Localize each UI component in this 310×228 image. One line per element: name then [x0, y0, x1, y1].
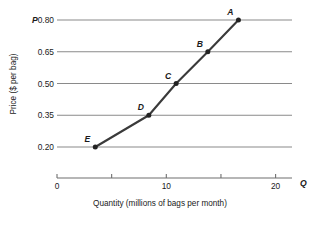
data-point-E	[93, 145, 98, 150]
point-label-B: B	[197, 39, 203, 49]
data-point-labels: EDCBA	[84, 7, 233, 144]
x-tick-label-0: 0	[55, 181, 60, 191]
x-tick-label-10: 10	[162, 181, 172, 191]
y-axis-title: Price ($ per bag)	[9, 53, 18, 114]
data-point-B	[205, 49, 210, 54]
data-point-D	[146, 113, 151, 118]
chart-canvas: 0.200.350.500.650.80 01020 EDCBA P Q Qua…	[0, 0, 310, 228]
supply-curve-chart: 0.200.350.500.650.80 01020 EDCBA P Q Qua…	[0, 0, 310, 228]
x-axis	[57, 174, 292, 178]
y-tick-label-0.80: 0.80	[38, 15, 55, 25]
y-axis-tick-labels: 0.200.350.500.650.80	[38, 15, 55, 152]
x-axis-title: Quantity (millions of bags per month)	[93, 199, 227, 208]
y-axis-symbol: P	[32, 15, 38, 25]
curve-segment-D-C	[149, 84, 176, 116]
curve-segment-E-D	[95, 115, 149, 147]
y-tick-label-0.65: 0.65	[38, 47, 55, 57]
data-point-A	[236, 18, 241, 23]
curve-segment-B-A	[208, 20, 239, 52]
x-axis-tick-labels: 01020	[55, 181, 281, 191]
y-tick-label-0.35: 0.35	[38, 110, 55, 120]
point-label-A: A	[226, 7, 233, 17]
data-point-C	[174, 81, 179, 86]
point-label-D: D	[138, 102, 144, 112]
x-tick-label-20: 20	[271, 181, 281, 191]
curve-segment-C-B	[176, 52, 208, 84]
y-tick-label-0.20: 0.20	[38, 142, 55, 152]
point-label-E: E	[84, 134, 90, 144]
y-tick-label-0.50: 0.50	[38, 79, 55, 89]
point-label-C: C	[165, 71, 172, 81]
x-axis-symbol: Q	[300, 178, 307, 188]
